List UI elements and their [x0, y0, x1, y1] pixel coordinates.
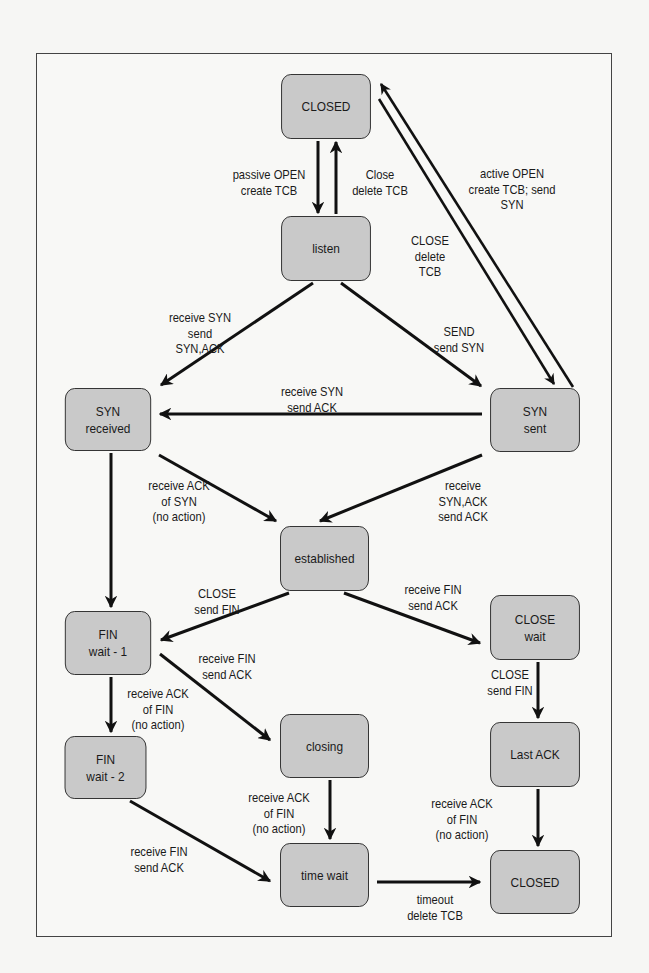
state-label: CLOSE wait — [515, 611, 555, 645]
label-closewait-close: CLOSE send FIN — [486, 667, 534, 698]
state-label: SYN sent — [523, 403, 547, 437]
state-label: CLOSED — [302, 98, 351, 115]
state-label: FIN wait - 1 — [89, 626, 127, 660]
label-close-delete: Close delete TCB — [346, 167, 415, 198]
label-est-rcv-fin: receive FIN send ACK — [394, 582, 471, 613]
state-closed-bottom: CLOSED — [490, 850, 580, 914]
state-time-wait: time wait — [280, 843, 369, 907]
state-syn-received: SYN received — [65, 388, 151, 451]
label-timeout: timeout delete TCB — [396, 892, 473, 923]
state-established: established — [280, 526, 369, 591]
state-label: FIN wait - 2 — [86, 751, 124, 785]
label-synsent-rcv-synack: receive SYN,ACK send ACK — [433, 478, 493, 525]
label-passive-open: passive OPEN create TCB — [229, 167, 310, 198]
state-closing: closing — [280, 714, 369, 778]
label-closing-rcv-ack: receive ACK of FIN (no action) — [236, 790, 322, 837]
label-synrcv-rcv-ack: receive ACK of SYN (no action) — [140, 478, 217, 525]
label-finwait1-rcv-fin: receive FIN send ACK — [188, 651, 265, 682]
label-finwait2-rcv-fin: receive FIN send ACK — [120, 844, 197, 875]
label-listen-rcv-syn: receive SYN send SYN,ACK — [166, 310, 235, 357]
state-label: listen — [312, 240, 340, 257]
label-active-open: active OPEN create TCB; send SYN — [460, 166, 563, 213]
label-finwait1-rcv-ack: receive ACK of FIN (no action) — [119, 686, 196, 733]
state-fin-wait-1: FIN wait - 1 — [65, 611, 151, 675]
state-last-ack: Last ACK — [490, 722, 580, 787]
state-label: time wait — [301, 867, 348, 884]
transition-arrows — [0, 0, 649, 973]
state-close-wait: CLOSE wait — [490, 595, 580, 660]
state-fin-wait-2: FIN wait - 2 — [65, 736, 147, 799]
state-label: Last ACK — [510, 746, 560, 763]
label-est-close: CLOSE send FIN — [187, 586, 247, 617]
label-listen-send: SEND send SYN — [429, 324, 489, 355]
state-closed-top: CLOSED — [281, 74, 371, 139]
state-label: established — [294, 550, 354, 567]
state-label: SYN received — [86, 403, 131, 437]
state-label: closing — [306, 738, 343, 755]
state-syn-sent: SYN sent — [490, 388, 580, 452]
state-listen: listen — [281, 216, 371, 281]
label-close-delete-tcb: CLOSE delete TCB — [409, 233, 452, 280]
label-lastack-rcv-ack: receive ACK of FIN (no action) — [419, 796, 505, 843]
state-label: CLOSED — [511, 874, 560, 891]
label-synsent-rcv-syn: receive SYN send ACK — [269, 384, 355, 415]
